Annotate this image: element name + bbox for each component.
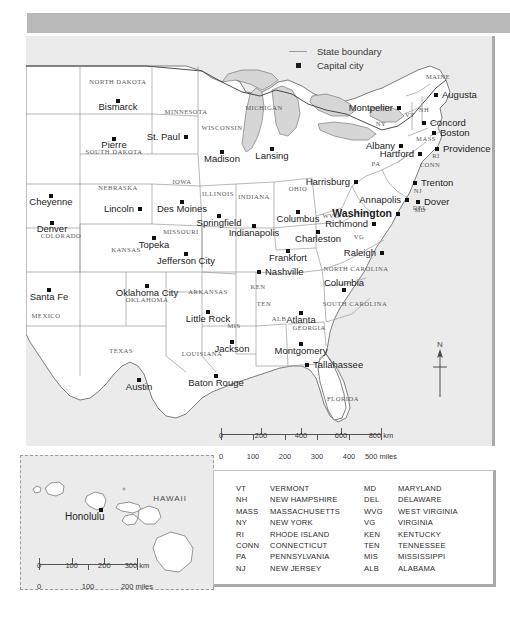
abbreviation-row: PAPENNSYLVANIA: [236, 551, 364, 562]
abbreviation-row: NHNEW HAMPSHIRE: [236, 494, 364, 505]
capital-city-label: Des Moines: [157, 203, 207, 214]
state-name-label: NEBRASKA: [98, 184, 138, 191]
scale-label-km: 600: [335, 431, 348, 440]
state-name-label: ALB: [272, 315, 287, 322]
abbreviation-code: KEN: [364, 529, 398, 540]
abbreviation-code: NH: [236, 494, 270, 505]
abbreviation-row: MASSMASSACHUSETTS: [236, 506, 364, 517]
capital-city-label: Topeka: [139, 239, 170, 250]
capital-city-label: Lincoln: [104, 203, 134, 214]
abbreviation-name: NEW HAMPSHIRE: [270, 494, 338, 505]
abbreviation-row: MISMISSISSIPPI: [364, 551, 492, 562]
abbreviation-row: ALBALABAMA: [364, 563, 492, 574]
capital-dot: [413, 181, 417, 185]
state-name-label: KANSAS: [111, 246, 140, 253]
state-name-label: OHIO: [289, 185, 307, 192]
scale-label-km: 100: [65, 561, 78, 570]
scale-tick: [349, 434, 350, 440]
abbreviation-row: TENTENNESSEE: [364, 540, 492, 551]
main-scale-track: 0200400600800 km 0100200300400500 miles: [221, 432, 381, 437]
abbreviation-code: PA: [236, 551, 270, 562]
legend-item-state-boundary: State boundary: [285, 44, 415, 58]
capital-dot: [342, 288, 346, 292]
state-name-label: TEN: [257, 300, 271, 307]
abbreviation-name: RHODE ISLAND: [270, 529, 329, 540]
capital-city-label: Lansing: [255, 150, 288, 161]
capital-city-label: Hartford: [380, 148, 414, 159]
capital-dot: [405, 198, 409, 202]
scale-tick: [285, 434, 286, 440]
abbreviation-row: NYNEW YORK: [236, 517, 364, 528]
state-name-label: ILLINOIS: [202, 190, 234, 197]
abbreviation-row: WVGWEST VIRGINIA: [364, 506, 492, 517]
state-name-label: LOUISIANA: [182, 350, 222, 357]
legend-label-state-boundary: State boundary: [311, 45, 381, 58]
capital-dot: [397, 106, 401, 110]
state-name-label: ARKANSAS: [188, 288, 228, 295]
abbreviation-row: KENKENTUCKY: [364, 529, 492, 540]
abbreviation-name: MASSACHUSETTS: [270, 506, 340, 517]
header-band: [27, 13, 510, 33]
scale-tick: [137, 564, 138, 570]
abbreviation-row: NJNEW JERSEY: [236, 563, 364, 574]
abbreviation-code: DEL: [364, 494, 398, 505]
main-map[interactable]: .land{fill:#ffffff;stroke:#4a4a4a;stroke…: [26, 36, 495, 446]
capital-city-label: Jefferson City: [157, 255, 215, 266]
map-graphic: .land{fill:#ffffff;stroke:#4a4a4a;stroke…: [26, 36, 492, 446]
state-name-label: MEXICO: [31, 312, 60, 319]
capital-dot: [257, 270, 261, 274]
capital-city-label: Montgomery: [275, 345, 328, 356]
abbreviation-column-left: VTVERMONTNHNEW HAMPSHIREMASSMASSACHUSETT…: [236, 483, 364, 574]
capital-city-label: St. Paul: [147, 131, 180, 142]
scale-label-km: 200: [255, 431, 268, 440]
abbreviation-row: RIRHODE ISLAND: [236, 529, 364, 540]
abbreviation-code: VT: [236, 483, 270, 494]
abbreviation-name: KENTUCKY: [398, 529, 441, 540]
state-boundary-line-icon: [285, 51, 311, 52]
abbreviation-name: DELAWARE: [398, 494, 442, 505]
state-name-label: KEN: [250, 283, 265, 290]
capital-city-label: Tallahassee: [313, 359, 363, 370]
capital-dot: [372, 222, 376, 226]
state-name-label: INDIANA: [238, 193, 270, 200]
capital-city-label: Washington: [332, 207, 392, 219]
scale-label-miles: 300: [311, 452, 324, 461]
capital-city-label: Columbia: [324, 277, 365, 288]
abbreviation-code: TEN: [364, 540, 398, 551]
capital-city-label: Frankfort: [269, 252, 307, 263]
capital-city-label: Dover: [424, 196, 449, 207]
state-name-label: COLORADO: [41, 232, 82, 239]
abbreviation-code: NY: [236, 517, 270, 528]
capital-city-label: Bismarck: [98, 101, 137, 112]
state-name-label: NJ: [414, 187, 422, 194]
state-name-label: SOUTH DAKOTA: [86, 148, 143, 155]
capital-city-label: Santa Fe: [30, 291, 69, 302]
scale-label-miles: 200 miles: [121, 582, 153, 590]
state-name-label: MIS: [227, 322, 240, 329]
hawaii-inset[interactable]: HAWAII Honolulu 0100200300 km 0100200 mi…: [20, 455, 214, 590]
abbreviation-row: MDMARYLAND: [364, 483, 492, 494]
abbreviation-name: PENNSYLVANIA: [270, 551, 330, 562]
north-arrow-icon: [430, 349, 450, 399]
capital-city-label: Little Rock: [186, 313, 231, 324]
abbreviation-name: WEST VIRGINIA: [398, 506, 458, 517]
abbreviation-code: WVG: [364, 506, 398, 517]
abbreviation-name: MISSISSIPPI: [398, 551, 445, 562]
state-name-label: DEL: [413, 204, 427, 211]
abbreviation-column-right: MDMARYLANDDELDELAWAREWVGWEST VIRGINIAVGV…: [364, 483, 492, 574]
state-name-label: NH: [419, 106, 430, 113]
scale-tick: [253, 434, 254, 440]
abbreviation-code: RI: [236, 529, 270, 540]
abbreviation-code: MASS: [236, 506, 270, 517]
scale-tick: [88, 564, 89, 570]
state-name-label: MAINE: [426, 73, 450, 80]
abbreviation-name: CONNECTICUT: [270, 540, 327, 551]
capital-dot: [434, 93, 438, 97]
abbreviation-code: MD: [364, 483, 398, 494]
state-name-label: PA: [372, 160, 381, 167]
capital-city-square-icon: [285, 63, 311, 68]
abbreviation-name: MARYLAND: [398, 483, 442, 494]
state-name-label: MICHIGAN: [245, 104, 283, 111]
capital-dot: [354, 180, 358, 184]
map-page: .land{fill:#ffffff;stroke:#4a4a4a;stroke…: [0, 0, 510, 627]
